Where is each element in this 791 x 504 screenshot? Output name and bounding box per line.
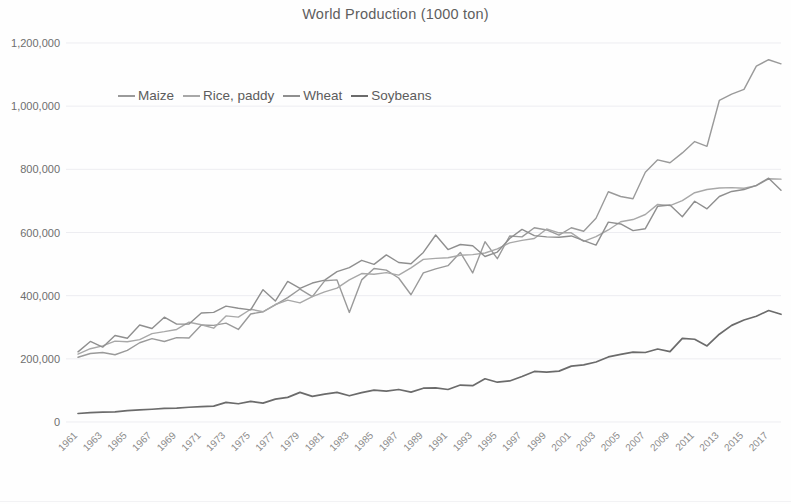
data-series-group [78, 60, 781, 414]
y-axis-tick-labels: 0200,000400,000600,000800,0001,000,0001,… [11, 37, 60, 428]
legend-entry-maize[interactable]: Maize [118, 88, 174, 103]
x-axis-tick-label: 2013 [697, 429, 721, 453]
legend-line-swatch-icon [118, 95, 135, 97]
x-axis-tick-label: 1965 [105, 429, 129, 453]
series-line-rice-paddy [78, 179, 781, 354]
legend-entry-wheat[interactable]: Wheat [283, 88, 342, 103]
y-axis-tick-label: 1,000,000 [11, 100, 60, 112]
x-axis-tick-label: 1985 [352, 429, 376, 453]
x-axis-tick-label: 1995 [475, 429, 499, 453]
chart-figure: World Production (1000 ton) 0200,000400,… [0, 0, 791, 504]
x-axis-tick-label: 1971 [179, 429, 203, 453]
legend-label: Soybeans [371, 88, 431, 103]
x-axis-tick-label: 2015 [722, 429, 746, 453]
x-axis-tick-label: 1967 [130, 429, 154, 453]
legend-line-swatch-icon [283, 95, 300, 97]
x-axis-tick-label: 1979 [278, 429, 302, 453]
x-axis-tick-label: 2017 [747, 429, 771, 453]
series-line-maize [78, 60, 781, 358]
x-axis-tick-label: 2003 [574, 429, 598, 453]
x-axis-tick-label: 2001 [549, 429, 573, 453]
x-axis-tick-label: 1969 [155, 429, 179, 453]
x-axis-tick-label: 1997 [500, 429, 524, 453]
x-axis-tick-labels: 1961196319651967196919711973197519771979… [56, 429, 770, 453]
chart-legend: MaizeRice, paddyWheatSoybeans [118, 88, 440, 103]
x-axis-tick-label: 1981 [303, 429, 327, 453]
y-axis-tick-label: 600,000 [20, 227, 60, 239]
legend-label: Rice, paddy [203, 88, 274, 103]
legend-line-swatch-icon [351, 95, 368, 97]
x-axis-tick-label: 1975 [229, 429, 253, 453]
x-axis-tick-label: 1983 [327, 429, 351, 453]
x-axis-tick-label: 2005 [599, 429, 623, 453]
y-axis-tick-label: 800,000 [20, 163, 60, 175]
legend-label: Wheat [303, 88, 342, 103]
x-axis-tick-label: 1993 [451, 429, 475, 453]
figure-bottom-divider [0, 501, 791, 502]
x-axis-tick-label: 1987 [377, 429, 401, 453]
x-axis-tick-label: 1999 [525, 429, 549, 453]
x-axis-tick-label: 1991 [426, 429, 450, 453]
y-axis-tick-label: 400,000 [20, 290, 60, 302]
x-axis-tick-label: 1961 [56, 429, 80, 453]
line-chart-plot: 0200,000400,000600,000800,0001,000,0001,… [0, 0, 791, 504]
x-axis-tick-label: 1963 [81, 429, 105, 453]
x-axis-tick-label: 2007 [623, 429, 647, 453]
x-axis-tick-label: 1989 [401, 429, 425, 453]
y-axis-tick-label: 0 [54, 416, 60, 428]
legend-label: Maize [138, 88, 174, 103]
legend-line-swatch-icon [183, 95, 200, 97]
x-axis-tick-label: 2009 [648, 429, 672, 453]
x-axis-tick-label: 1973 [204, 429, 228, 453]
legend-entry-rice-paddy[interactable]: Rice, paddy [183, 88, 274, 103]
y-axis-tick-label: 200,000 [20, 353, 60, 365]
x-axis-tick-label: 1977 [253, 429, 277, 453]
legend-entry-soybeans[interactable]: Soybeans [351, 88, 431, 103]
x-axis-tick-label: 2011 [673, 429, 696, 452]
y-axis-tick-label: 1,200,000 [11, 37, 60, 49]
